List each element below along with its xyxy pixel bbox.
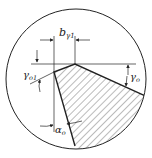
gamma-o-label: γo <box>130 71 140 84</box>
alpha-o-label: αo <box>55 124 66 137</box>
gamma-o1-arrows <box>37 50 40 92</box>
gamma-o-arrows <box>126 65 128 86</box>
b-gamma1-label: bγ1 <box>59 26 75 40</box>
tool-geometry-diagram: bγ1 γo1 γo αo <box>0 0 152 158</box>
gamma-o1-label: γo1 <box>23 69 37 82</box>
